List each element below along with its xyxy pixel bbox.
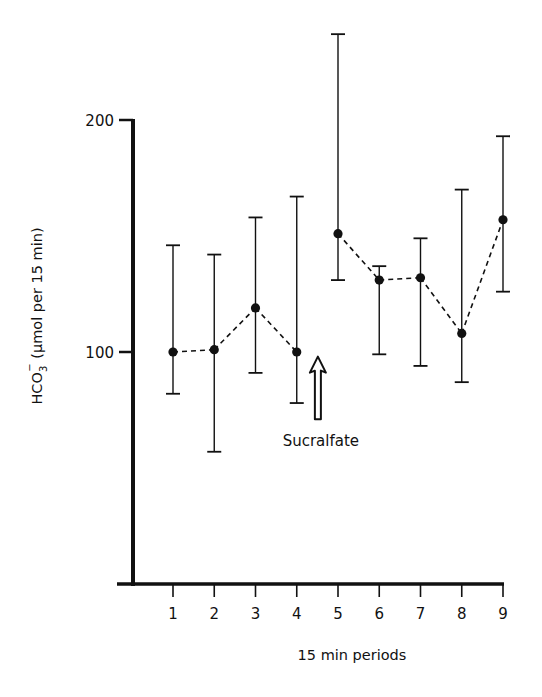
data-point: [457, 329, 466, 338]
x-axis-title: 15 min periods: [298, 647, 407, 663]
error-bars: [166, 34, 510, 452]
y-axis-title-main: HCO: [29, 372, 45, 404]
y-axis-title-rest: (μmol per 15 min): [29, 227, 45, 363]
data-point: [251, 303, 260, 312]
y-axis-title-sup: −: [24, 363, 35, 371]
dashed-segment: [379, 278, 420, 280]
data-point: [168, 347, 177, 356]
x-tick-label: 6: [374, 605, 384, 623]
dashed-segment: [462, 220, 503, 334]
y-tick-label: 200: [85, 112, 114, 130]
dashed-segment: [173, 350, 214, 352]
dashed-segment: [338, 234, 379, 280]
dashed-segment: [421, 278, 462, 334]
y-axis-title-sub: 3: [38, 366, 49, 372]
data-point: [333, 229, 342, 238]
x-tick-label: 3: [251, 605, 261, 623]
x-tick-label: 9: [498, 605, 508, 623]
x-axis-ticks: 123456789: [168, 584, 508, 623]
x-tick-label: 7: [416, 605, 426, 623]
chart: 100200 123456789 Sucralfate 15 min perio…: [0, 0, 542, 697]
y-axis-title: HCO3− (μmol per 15 min): [24, 227, 49, 404]
y-tick-label: 100: [85, 344, 114, 362]
data-point: [375, 275, 384, 284]
data-point: [498, 215, 507, 224]
x-tick-label: 8: [457, 605, 467, 623]
data-point: [416, 273, 425, 282]
x-tick-label: 2: [209, 605, 219, 623]
hollow-up-arrow-icon: [310, 357, 326, 420]
x-tick-label: 4: [292, 605, 302, 623]
data-point: [210, 345, 219, 354]
dashed-segment: [256, 308, 297, 352]
data-points: [168, 215, 507, 356]
x-tick-label: 5: [333, 605, 343, 623]
x-tick-label: 1: [168, 605, 178, 623]
data-point: [292, 347, 301, 356]
y-axis-ticks: 100200: [85, 112, 133, 362]
sucralfate-label: Sucralfate: [283, 432, 359, 450]
dashed-segment: [214, 308, 255, 350]
